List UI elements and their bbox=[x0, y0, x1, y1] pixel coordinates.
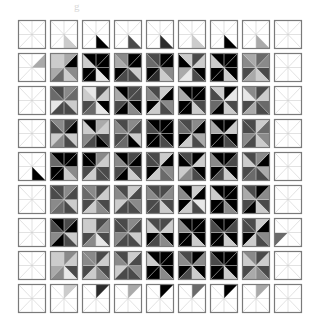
glyph-cell bbox=[208, 84, 240, 117]
glyph-cell bbox=[176, 117, 208, 150]
glyph-cell bbox=[80, 84, 112, 117]
glyph-cell bbox=[48, 183, 80, 216]
glyph-cell bbox=[80, 150, 112, 183]
glyph-cell bbox=[208, 249, 240, 282]
glyph-cell bbox=[272, 150, 304, 183]
glyph-cell bbox=[240, 18, 272, 51]
glyph-cell bbox=[272, 216, 304, 249]
glyph-cell bbox=[208, 117, 240, 150]
glyph-cell bbox=[208, 282, 240, 315]
glyph-cell bbox=[144, 249, 176, 282]
glyph-cell bbox=[48, 150, 80, 183]
glyph-cell bbox=[272, 117, 304, 150]
glyph-cell bbox=[112, 282, 144, 315]
glyph-cell bbox=[176, 183, 208, 216]
glyph-cell bbox=[16, 282, 48, 315]
glyph-cell bbox=[176, 51, 208, 84]
glyph-cell bbox=[16, 216, 48, 249]
glyph-cell bbox=[176, 150, 208, 183]
glyph-cell bbox=[16, 150, 48, 183]
glyph-cell bbox=[112, 183, 144, 216]
glyph-cell bbox=[208, 18, 240, 51]
glyph-cell bbox=[16, 18, 48, 51]
glyph-cell bbox=[240, 150, 272, 183]
glyph-cell bbox=[112, 249, 144, 282]
glyph-cell bbox=[112, 18, 144, 51]
glyph-cell bbox=[208, 183, 240, 216]
glyph-cell bbox=[240, 183, 272, 216]
glyph-cell bbox=[48, 84, 80, 117]
glyph-cell bbox=[80, 117, 112, 150]
glyph-cell bbox=[48, 117, 80, 150]
glyph-cell bbox=[112, 51, 144, 84]
glyph-cell bbox=[144, 183, 176, 216]
glyph-cell bbox=[144, 150, 176, 183]
glyph-cell bbox=[112, 216, 144, 249]
glyph-cell bbox=[240, 51, 272, 84]
glyph-cell bbox=[48, 282, 80, 315]
glyph-cell bbox=[16, 84, 48, 117]
glyph-cell bbox=[48, 51, 80, 84]
glyph-cell bbox=[272, 249, 304, 282]
glyph-cell bbox=[240, 282, 272, 315]
glyph-cell bbox=[240, 216, 272, 249]
glyph-cell bbox=[80, 216, 112, 249]
glyph-cell bbox=[144, 84, 176, 117]
glyph-cell bbox=[176, 18, 208, 51]
glyph-cell bbox=[144, 282, 176, 315]
glyph-cell bbox=[272, 51, 304, 84]
glyph-cell bbox=[16, 249, 48, 282]
glyph-cell bbox=[272, 282, 304, 315]
glyph-cell bbox=[80, 18, 112, 51]
glyph-cell bbox=[176, 216, 208, 249]
glyph-cell bbox=[176, 84, 208, 117]
glyph-cell bbox=[240, 249, 272, 282]
glyph-cell bbox=[144, 18, 176, 51]
glyph-cell bbox=[240, 117, 272, 150]
glyph-cell bbox=[48, 18, 80, 51]
glyph-cell bbox=[112, 150, 144, 183]
glyph-cell bbox=[144, 216, 176, 249]
glyph-cell bbox=[208, 216, 240, 249]
glyph-cell bbox=[240, 84, 272, 117]
glyph-cell bbox=[208, 51, 240, 84]
glyph-cell bbox=[112, 84, 144, 117]
glyph-matrix-grid bbox=[16, 18, 304, 315]
glyph-cell bbox=[144, 117, 176, 150]
glyph-cell bbox=[16, 183, 48, 216]
glyph-cell bbox=[80, 183, 112, 216]
glyph-cell bbox=[48, 249, 80, 282]
top-artifact-glyph: g bbox=[74, 0, 88, 12]
glyph-cell bbox=[80, 249, 112, 282]
glyph-cell bbox=[16, 51, 48, 84]
glyph-cell bbox=[272, 18, 304, 51]
glyph-cell bbox=[272, 183, 304, 216]
glyph-cell bbox=[48, 216, 80, 249]
glyph-cell bbox=[16, 117, 48, 150]
glyph-cell bbox=[144, 51, 176, 84]
glyph-cell bbox=[176, 282, 208, 315]
glyph-cell bbox=[176, 249, 208, 282]
glyph-cell bbox=[112, 117, 144, 150]
glyph-cell bbox=[208, 150, 240, 183]
glyph-cell bbox=[80, 282, 112, 315]
glyph-cell bbox=[272, 84, 304, 117]
glyph-cell bbox=[80, 51, 112, 84]
